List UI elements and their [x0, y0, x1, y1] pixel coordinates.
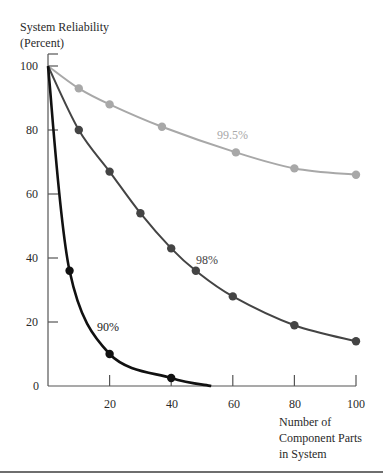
- series-label-98: 98%: [196, 253, 218, 267]
- data-point-marker: [232, 148, 240, 156]
- x-tick-20: 20: [95, 397, 125, 411]
- plot-area: [0, 0, 383, 475]
- x-tick-40: 40: [157, 397, 187, 411]
- x-axis-label-line-3: in System: [279, 446, 362, 462]
- data-point-marker: [105, 167, 113, 175]
- data-point-marker: [352, 171, 360, 179]
- x-tick-80: 80: [280, 397, 310, 411]
- x-axis-label: Number of Component Parts in System: [279, 414, 362, 462]
- y-tick-0: 0: [33, 379, 61, 393]
- data-point-marker: [105, 350, 113, 358]
- data-point-marker: [158, 123, 166, 131]
- series-label-90: 90%: [97, 320, 119, 334]
- data-point-marker: [352, 337, 360, 345]
- series-line-995: [48, 66, 356, 175]
- y-tick-100: 100: [14, 59, 38, 73]
- x-tick-60: 60: [219, 397, 249, 411]
- series-label-99-5: 99.5%: [217, 128, 248, 142]
- data-point-marker: [290, 164, 298, 172]
- data-point-marker: [229, 292, 237, 300]
- data-point-marker: [75, 84, 83, 92]
- y-tick-40: 40: [14, 251, 38, 265]
- data-point-marker: [167, 374, 175, 382]
- x-axis-label-line-2: Component Parts: [279, 430, 362, 446]
- y-tick-20: 20: [14, 315, 38, 329]
- data-point-marker: [75, 126, 83, 134]
- data-point-marker: [65, 267, 73, 275]
- x-axis-label-line-1: Number of: [279, 414, 362, 430]
- data-point-marker: [167, 244, 175, 252]
- data-point-marker: [105, 100, 113, 108]
- x-tick-100: 100: [341, 397, 371, 411]
- data-point-marker: [192, 267, 200, 275]
- y-tick-60: 60: [14, 187, 38, 201]
- data-point-marker: [290, 321, 298, 329]
- bottom-divider: [0, 471, 383, 473]
- data-point-marker: [136, 209, 144, 217]
- series-line-98: [48, 66, 356, 341]
- y-tick-80: 80: [14, 123, 38, 137]
